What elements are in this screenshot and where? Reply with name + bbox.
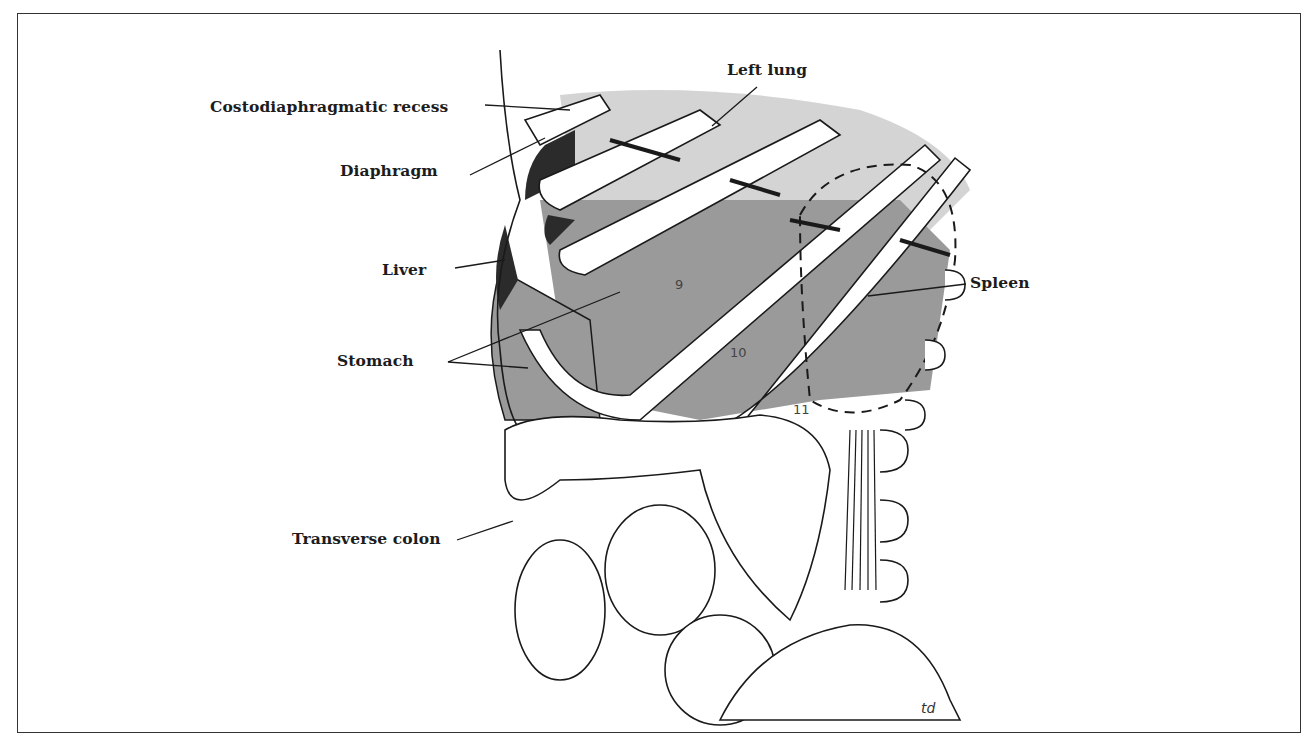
label-diaphragm: Diaphragm [340, 161, 438, 180]
vertebra-6 [880, 560, 908, 602]
vertebra-2 [925, 340, 945, 370]
label-costodiaphragmatic-recess: Costodiaphragmatic recess [210, 97, 448, 116]
small-intestine-2 [605, 505, 715, 635]
leader-transverse-colon [457, 521, 513, 540]
label-stomach: Stomach [337, 351, 414, 370]
label-liver: Liver [382, 260, 426, 279]
leader-costodiaphragmatic-recess [485, 105, 570, 110]
vertebra-3 [905, 400, 925, 430]
vertebra-4 [880, 430, 908, 472]
rib-number-10: 10 [730, 345, 747, 360]
rib-number-11: 11 [793, 402, 810, 417]
small-intestine-1 [515, 540, 605, 680]
label-left-lung: Left lung [727, 60, 807, 79]
label-spleen: Spleen [970, 273, 1030, 292]
label-transverse-colon: Transverse colon [292, 529, 441, 548]
vertebra-5 [880, 500, 908, 542]
rib-number-9: 9 [675, 277, 683, 292]
anatomical-illustration [0, 0, 1316, 745]
artist-signature: td [921, 700, 935, 716]
